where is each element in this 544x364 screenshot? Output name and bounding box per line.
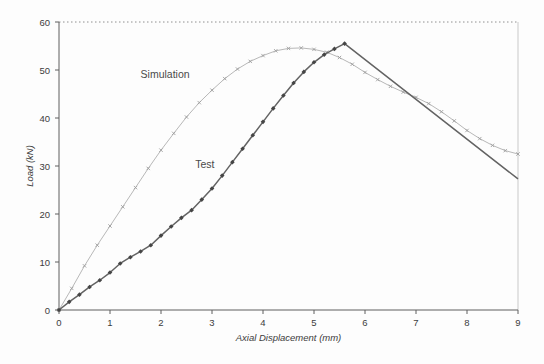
simulation-marker [198,101,201,104]
series-label-test: Test [195,158,214,170]
simulation-marker [70,287,73,290]
axes [59,22,518,310]
x-tick-label: 2 [158,317,163,328]
simulation-marker [96,244,99,247]
x-tick-label: 5 [311,317,316,328]
series-simulation [57,46,519,311]
simulation-marker [478,137,481,140]
x-tick-label: 0 [56,317,61,328]
x-tick-label: 7 [413,317,418,328]
x-tick-label: 8 [464,317,469,328]
y-tick-label: 10 [39,257,50,268]
simulation-marker [427,102,430,105]
series-label-simulation: Simulation [141,68,190,80]
simulation-marker [465,129,468,132]
y-axis-title: Load (kN) [24,145,35,187]
series-line [59,44,518,310]
x-tick-label: 3 [209,317,214,328]
simulation-marker [185,115,188,118]
y-tick-label: 60 [39,17,50,28]
y-tick-label: 50 [39,65,50,76]
load-displacement-chart: 01234567890102030405060Axial Displacemen… [0,0,544,364]
x-tick-label: 6 [362,317,367,328]
simulation-marker [121,205,124,208]
simulation-marker [236,67,239,70]
simulation-marker [453,119,456,122]
series-test [57,41,518,312]
simulation-marker [159,148,162,151]
y-tick-label: 20 [39,209,50,220]
y-tick-label: 0 [45,305,50,316]
simulation-marker [83,264,86,267]
x-tick-label: 1 [107,317,112,328]
x-tick-label: 4 [260,317,265,328]
tick-marks-and-labels: 01234567890102030405060 [39,17,520,329]
simulation-marker [147,167,150,170]
y-tick-label: 40 [39,113,50,124]
x-axis-title: Axial Displacement (mm) [235,332,342,343]
series-line [59,48,518,310]
simulation-marker [351,63,354,66]
simulation-marker [134,186,137,189]
x-tick-label: 9 [515,317,520,328]
simulation-marker [108,224,111,227]
simulation-marker [223,77,226,80]
simulation-marker [363,71,366,74]
chart-svg: 01234567890102030405060Axial Displacemen… [0,0,544,364]
simulation-marker [210,88,213,91]
simulation-marker [172,132,175,135]
y-tick-label: 30 [39,161,50,172]
simulation-marker [376,78,379,81]
simulation-marker [440,110,443,113]
